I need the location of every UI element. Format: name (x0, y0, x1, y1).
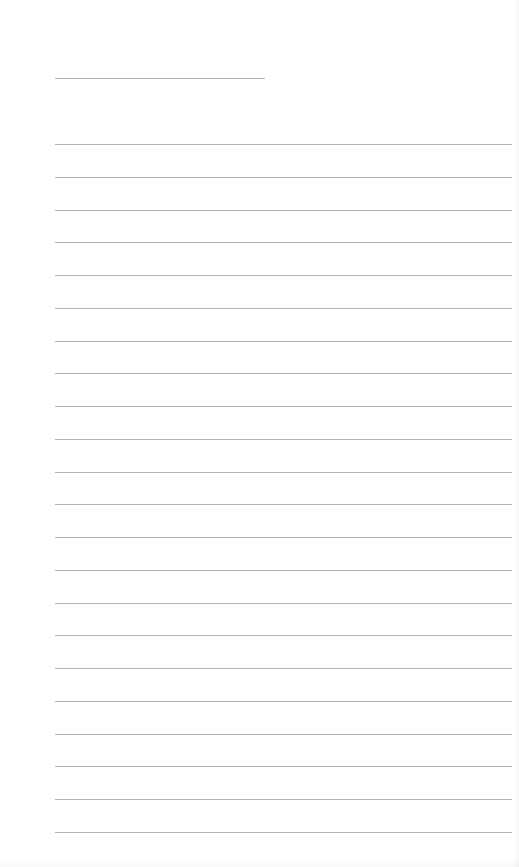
ruled-line (55, 275, 512, 276)
ruled-line (55, 832, 512, 833)
ruled-line (55, 341, 512, 342)
ruled-line (55, 439, 512, 440)
ruled-line (55, 308, 512, 309)
ruled-line (55, 144, 512, 145)
ruled-line (55, 603, 512, 604)
page-edge-shadow (513, 0, 519, 867)
ruled-line (55, 406, 512, 407)
ruled-line (55, 537, 512, 538)
ruled-line (55, 210, 512, 211)
ruled-line (55, 734, 512, 735)
title-line (55, 78, 265, 79)
lined-paper-page (0, 0, 519, 867)
ruled-line (55, 177, 512, 178)
ruled-line (55, 570, 512, 571)
ruled-line (55, 635, 512, 636)
ruled-line (55, 766, 512, 767)
ruled-line (55, 373, 512, 374)
ruled-line (55, 668, 512, 669)
ruled-line (55, 799, 512, 800)
ruled-line (55, 472, 512, 473)
ruled-line (55, 701, 512, 702)
ruled-line (55, 242, 512, 243)
page-bottom-shadow (0, 855, 519, 867)
ruled-line (55, 504, 512, 505)
